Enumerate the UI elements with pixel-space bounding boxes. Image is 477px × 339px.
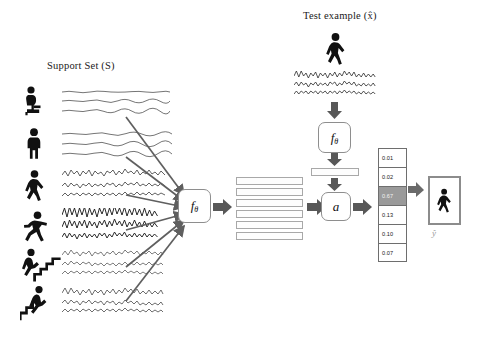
probability-cell-1[interactable]: 0.02	[379, 168, 406, 187]
embedding-bar	[236, 221, 303, 229]
embedding-bar	[236, 232, 303, 240]
block-arrow-test-signals-to-encoder	[327, 102, 343, 120]
support-embeddings-stack	[236, 177, 303, 244]
encoder-label: fθ	[331, 130, 339, 146]
class-probability-column[interactable]: 0.01 0.02 0.67 0.13 0.10 0.07	[378, 148, 407, 262]
block-arrow-test-embedding-to-attention	[327, 178, 343, 192]
person-sitting-icon	[22, 86, 48, 116]
person-downstairs-icon	[20, 285, 64, 321]
block-arrow-probabilities-to-prediction	[408, 182, 425, 198]
support-set-title: Support Set (S)	[47, 60, 115, 71]
test-embedding-bar	[311, 168, 359, 176]
person-standing-icon	[23, 128, 47, 160]
block-arrow-encoder-to-test-embedding	[327, 153, 343, 167]
probability-cell-0[interactable]: 0.01	[379, 149, 406, 168]
probability-cell-5[interactable]: 0.07	[379, 244, 406, 262]
embedding-bar	[236, 188, 303, 196]
embedding-bar	[236, 199, 303, 207]
person-walking-icon	[434, 185, 455, 217]
person-upstairs-icon	[20, 248, 62, 282]
encoder-label: fθ	[191, 198, 199, 214]
block-arrow-encoder-to-embeddings	[213, 198, 233, 216]
probability-cell-3[interactable]: 0.13	[379, 206, 406, 225]
probability-cell-2[interactable]: 0.67	[379, 187, 406, 206]
encoder-f-theta-box-support[interactable]: fθ	[178, 189, 211, 223]
person-walking-icon	[322, 33, 350, 66]
person-running-icon	[19, 211, 51, 243]
signal-trace-test-example	[294, 71, 380, 99]
prediction-frame	[428, 176, 461, 225]
person-walking-icon	[21, 170, 49, 202]
embedding-bar	[236, 177, 303, 185]
diagram-canvas: Support Set (S)	[0, 0, 477, 339]
encoder-f-theta-box-test[interactable]: fθ	[318, 122, 351, 153]
attention-module-box[interactable]: a	[321, 192, 351, 221]
probability-cell-4[interactable]: 0.10	[379, 225, 406, 244]
test-example-title: Test example (x̂)	[303, 10, 377, 21]
attention-label: a	[333, 199, 340, 215]
embedding-bar	[236, 210, 303, 218]
prediction-label: ŷ	[432, 228, 436, 238]
block-arrow-attention-to-probabilities	[353, 198, 373, 216]
